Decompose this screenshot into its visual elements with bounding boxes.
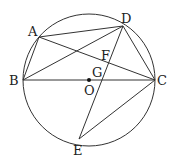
segment-ab bbox=[23, 37, 39, 80]
geometry-diagram: A B C D E F G O bbox=[0, 0, 175, 167]
label-e: E bbox=[73, 143, 83, 158]
label-b: B bbox=[9, 73, 19, 88]
center-point-o bbox=[87, 78, 91, 82]
label-f: F bbox=[101, 48, 110, 63]
segment-dc bbox=[123, 26, 155, 80]
label-o: O bbox=[84, 83, 95, 98]
segment-ad bbox=[39, 26, 123, 37]
label-d: D bbox=[121, 11, 131, 26]
label-c: C bbox=[157, 73, 167, 88]
label-a: A bbox=[27, 24, 38, 39]
label-g: G bbox=[92, 65, 102, 80]
